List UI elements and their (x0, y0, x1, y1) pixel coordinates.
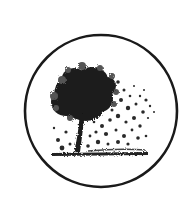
tree-emblem (0, 0, 193, 204)
